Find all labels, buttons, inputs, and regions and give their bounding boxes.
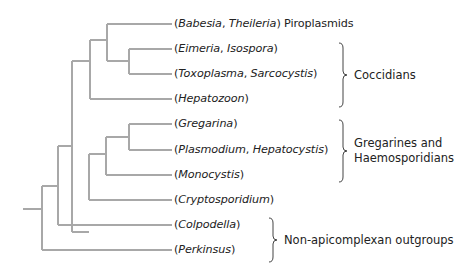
leaf-label-cryptosporidium: (Cryptosporidium): [174, 193, 274, 207]
tree-branch: [89, 154, 172, 200]
group-label-gregarines-haemosporidians: Gregarines andHaemosporidians: [354, 136, 454, 166]
taxon-name: Hepatocystis: [253, 143, 324, 156]
tree-branch: [42, 186, 172, 250]
group-label-piroplasmids: Piroplasmids: [281, 17, 354, 30]
brace-outgroups: [269, 218, 277, 262]
taxon-name: Perkinsus: [178, 243, 231, 256]
tree-branch: [129, 124, 172, 150]
taxon-name: Plasmodium: [178, 143, 245, 156]
tree-branch: [58, 146, 172, 225]
tree-branch: [107, 24, 172, 61]
taxon-name: Eimeria: [178, 42, 220, 55]
taxon-name: Toxoplasma: [178, 67, 243, 80]
tree-branch: [106, 137, 172, 175]
group-label-outgroups: Non-apicomplexan outgroups: [284, 233, 454, 248]
taxon-name: Sarcocystis: [251, 67, 313, 80]
leaf-label-perkinsus: (Perkinsus): [174, 243, 235, 257]
taxon-name: Babesia: [178, 17, 222, 30]
leaf-label-plasmodium: (Plasmodium, Hepatocystis): [174, 143, 328, 157]
taxon-name: Hepatozoon: [178, 92, 244, 105]
taxon-name: Gregarina: [178, 117, 233, 130]
taxon-name: Monocystis: [178, 168, 239, 181]
leaf-label-babesia: (Babesia, Theileria) Piroplasmids: [174, 17, 354, 31]
brace-gregarines-haemosporidians: [339, 120, 347, 182]
taxon-name: Theileria: [229, 17, 277, 30]
leaf-label-monocystis: (Monocystis): [174, 168, 244, 182]
leaf-label-eimeria: (Eimeria, Isospora): [174, 42, 278, 56]
tree-branch: [129, 49, 172, 74]
group-label-coccidians: Coccidians: [354, 68, 416, 83]
brace-coccidians: [339, 43, 347, 107]
leaf-label-gregarina: (Gregarina): [174, 117, 237, 131]
taxon-name: Cryptosporidium: [178, 193, 270, 206]
tree-branch: [72, 61, 90, 232]
leaf-label-colpodella: (Colpodella): [174, 218, 240, 232]
taxon-name: Colpodella: [178, 218, 236, 231]
leaf-label-hepatozoon: (Hepatozoon): [174, 92, 249, 106]
taxon-name: Isospora: [227, 42, 273, 55]
leaf-label-toxoplasma: (Toxoplasma, Sarcocystis): [174, 67, 317, 81]
